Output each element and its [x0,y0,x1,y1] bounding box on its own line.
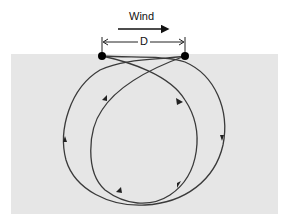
wind-label: Wind [129,10,154,22]
loop-diagram [0,0,289,220]
distance-label: D [140,35,148,47]
start-point-left [98,52,106,60]
start-point-right [181,52,189,60]
ground-area [11,54,278,214]
